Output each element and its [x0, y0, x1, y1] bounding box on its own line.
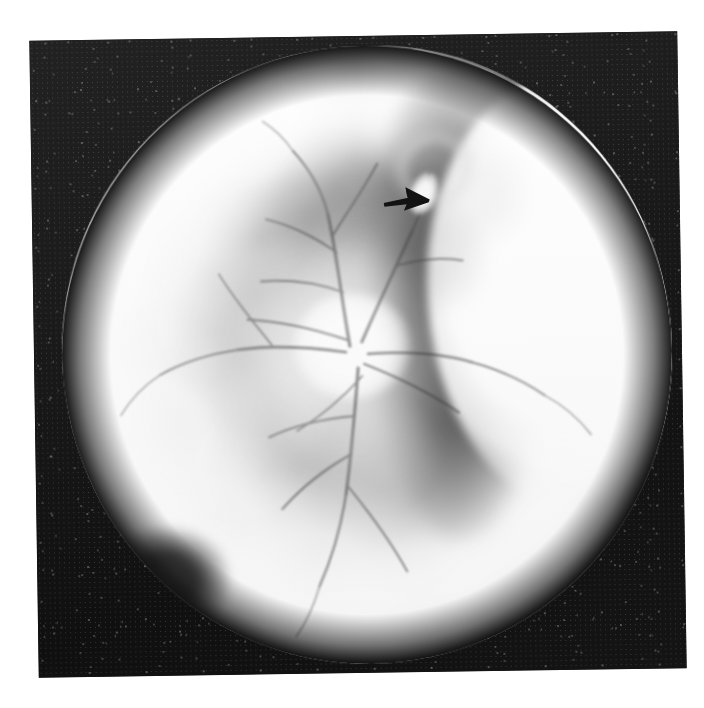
fundus-globe: [57, 41, 676, 668]
page-canvas: [0, 0, 704, 708]
arrow-annotation-icon: [381, 183, 433, 218]
fundus-photograph-plate: [29, 31, 686, 678]
